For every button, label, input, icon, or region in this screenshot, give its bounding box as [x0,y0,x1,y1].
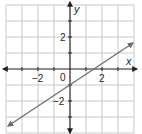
coordinate-plane: x y −2 0 2 2 −2 [0,0,142,134]
origin-label: 0 [60,72,66,83]
y-tick-label-neg2: −2 [53,96,65,107]
x-axis-label: x [125,55,132,67]
x-tick-label-2: 2 [99,73,105,84]
x-tick-label-neg2: −2 [32,73,44,84]
y-tick-label-2: 2 [60,32,66,43]
